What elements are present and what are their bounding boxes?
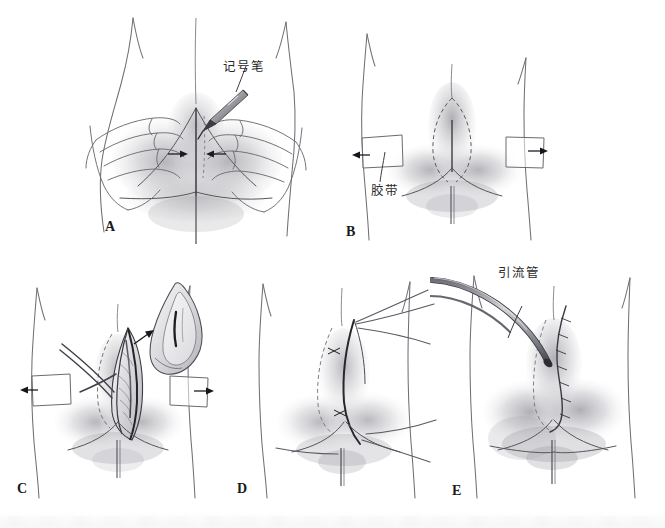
label-drainage-tube: 引流管: [498, 262, 540, 281]
gluteal-wash-a: [113, 92, 282, 232]
panel-e: [430, 262, 665, 502]
label-marker-pen: 记号笔: [223, 56, 265, 75]
label-adhesive-tape: 胶带: [371, 180, 399, 199]
adhesive-tape-left-c: [20, 374, 71, 406]
panel-c: [0, 262, 250, 502]
panel-a: [0, 0, 340, 248]
figure-canvas: A 记号笔: [0, 0, 665, 528]
panel-letter-a: A: [105, 219, 116, 235]
adhesive-tape-left-b: [352, 135, 403, 168]
panel-letter-b: B: [346, 224, 356, 240]
panel-d: [228, 262, 458, 502]
adhesive-tape-right-b: [506, 137, 548, 168]
panel-letter-d: D: [237, 481, 248, 497]
panel-letter-c: C: [17, 481, 28, 497]
excised-specimen-c: [150, 283, 202, 374]
gluteal-wash-e: [482, 318, 626, 470]
adhesive-tape-right-c: [170, 376, 214, 407]
scan-noise-strip: [0, 516, 665, 526]
panel-b: [330, 0, 665, 248]
panel-letter-e: E: [452, 483, 462, 499]
